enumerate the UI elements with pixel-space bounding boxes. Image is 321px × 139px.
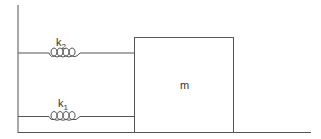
spring-k1-label: k1 — [58, 97, 69, 112]
spring-k2-label: k2 — [56, 36, 67, 51]
spring-k2 — [18, 48, 134, 57]
mass-label: m — [180, 79, 189, 91]
spring-mass-diagram: k2 k1 m — [0, 0, 321, 139]
spring-k1 — [18, 112, 134, 121]
